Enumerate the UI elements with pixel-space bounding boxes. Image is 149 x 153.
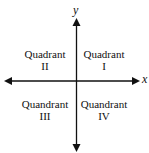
coordinate-axes (0, 0, 149, 153)
y-axis-down-arrow-icon (73, 144, 81, 152)
quadrant-ii-label: Quadrant II (15, 48, 75, 72)
y-axis-up-arrow-icon (73, 18, 81, 26)
y-axis-label: y (73, 4, 78, 16)
x-axis-right-arrow-icon (132, 77, 140, 85)
quadrant-ii-word: Quadrant (15, 48, 75, 60)
y-axis (73, 18, 81, 152)
quadrant-iii-numeral: III (15, 110, 75, 122)
x-axis (4, 77, 140, 85)
quadrant-ii-numeral: II (15, 60, 75, 72)
quadrant-iii-word: Quandrant (15, 98, 75, 110)
quadrant-i-label: Quadrant I (74, 48, 134, 72)
x-axis-left-arrow-icon (4, 77, 12, 85)
quadrant-iv-numeral: IV (74, 110, 134, 122)
quadrant-iv-word: Quandrant (74, 98, 134, 110)
quadrant-iii-label: Quandrant III (15, 98, 75, 122)
x-axis-label: x (142, 73, 147, 85)
quadrant-i-word: Quadrant (74, 48, 134, 60)
quadrant-i-numeral: I (74, 60, 134, 72)
quadrant-iv-label: Quandrant IV (74, 98, 134, 122)
